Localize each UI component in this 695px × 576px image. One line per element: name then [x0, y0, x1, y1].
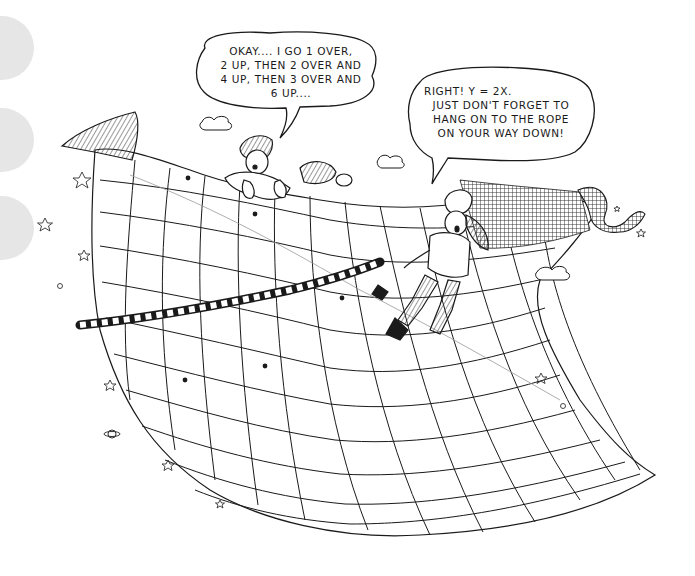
- planet-icon: [104, 430, 120, 438]
- speech-bubble-1-text: OKAY.... I GO 1 OVER, 2 UP, THEN 2 OVER …: [206, 44, 376, 100]
- child-on-top-edge: [225, 136, 352, 199]
- plotted-point: [263, 364, 268, 369]
- speech-bubble-2-text: RIGHT! Y = 2X. JUST DON'T FORGET TO HANG…: [410, 84, 592, 140]
- coordinate-grid-sheet: [62, 112, 655, 536]
- bubble-line: HANG ON TO THE ROPE: [410, 112, 592, 126]
- bubble-line: JUST DON'T FORGET TO: [410, 98, 592, 112]
- bubble-line: 4 UP, THEN 3 OVER AND: [206, 72, 376, 86]
- plotted-point: [186, 176, 191, 181]
- bubble-line: RIGHT! Y = 2X.: [410, 84, 592, 98]
- bubble-line: 6 UP....: [206, 86, 376, 100]
- bubble-line: 2 UP, THEN 2 OVER AND: [206, 58, 376, 72]
- plotted-point: [253, 212, 258, 217]
- bubble-line: OKAY.... I GO 1 OVER,: [206, 44, 376, 58]
- plotted-point: [183, 378, 188, 383]
- bubble-line: ON YOUR WAY DOWN!: [410, 126, 592, 140]
- plotted-point: [340, 296, 345, 301]
